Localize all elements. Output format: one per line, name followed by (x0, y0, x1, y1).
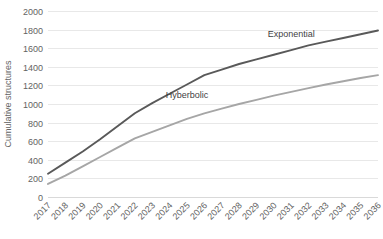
series-line-hyberbolic (48, 75, 378, 184)
series-label-exponential: Exponential (268, 29, 315, 39)
x-tick-label: 2019 (66, 200, 87, 221)
x-tick-label: 2021 (101, 200, 122, 221)
x-tick-label: 2029 (240, 200, 261, 221)
x-tick-label: 2033 (310, 200, 331, 221)
x-tick-label: 2028 (223, 200, 244, 221)
series-line-exponential (48, 31, 378, 174)
y-tick-label: 600 (28, 137, 43, 147)
line-chart: 0200400600800100012001400160018002000 20… (0, 0, 383, 239)
x-tick-label: 2036 (362, 200, 383, 221)
x-tick-label: 2030 (257, 200, 278, 221)
x-tick-label: 2022 (119, 200, 140, 221)
x-tick-label: 2018 (49, 200, 70, 221)
x-tick-label: 2034 (327, 200, 348, 221)
y-tick-label: 0 (38, 193, 43, 203)
y-tick-label: 1600 (23, 44, 43, 54)
series-label-hyberbolic: Hyberbolic (166, 90, 209, 100)
x-axis-tick-labels: 2017201820192020202120222023202420252026… (32, 200, 383, 221)
x-tick-label: 2020 (84, 200, 105, 221)
x-tick-label: 2026 (188, 200, 209, 221)
y-tick-label: 800 (28, 119, 43, 129)
y-tick-label: 1400 (23, 63, 43, 73)
x-tick-label: 2024 (153, 200, 174, 221)
x-tick-label: 2027 (205, 200, 226, 221)
y-axis-tick-labels: 0200400600800100012001400160018002000 (23, 7, 43, 203)
y-tick-label: 1000 (23, 100, 43, 110)
gridlines-group (48, 12, 378, 198)
x-tick-label: 2031 (275, 200, 296, 221)
chart-container: 0200400600800100012001400160018002000 20… (0, 0, 383, 239)
x-tick-label: 2035 (344, 200, 365, 221)
x-tick-label: 2032 (292, 200, 313, 221)
y-tick-label: 1800 (23, 26, 43, 36)
y-tick-label: 2000 (23, 7, 43, 17)
y-tick-label: 200 (28, 174, 43, 184)
y-tick-label: 1200 (23, 81, 43, 91)
y-axis-title: Cumulative structures (3, 60, 13, 148)
x-tick-label: 2025 (171, 200, 192, 221)
y-tick-label: 400 (28, 156, 43, 166)
x-tick-label: 2017 (32, 200, 53, 221)
x-tick-label: 2023 (136, 200, 157, 221)
